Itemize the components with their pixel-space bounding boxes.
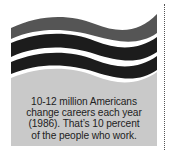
caption-line-3: (1986). That’s 10 percent — [11, 118, 157, 129]
caption-line-4: of the people who work. — [11, 130, 157, 141]
dotted-divider-line — [164, 4, 165, 150]
caption-line-1: 10-12 million Americans — [11, 96, 157, 107]
wave-illustration-panel: 10-12 million Americans change careers e… — [0, 0, 170, 154]
caption-line-2: change careers each year — [11, 107, 157, 118]
caption-text: 10-12 million Americans change careers e… — [11, 96, 157, 141]
